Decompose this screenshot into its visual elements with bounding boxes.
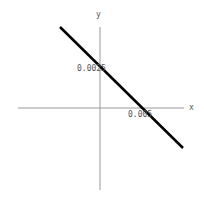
plot-area bbox=[0, 0, 204, 199]
x-tick-label: 0.005 bbox=[128, 111, 152, 119]
x-axis-label: x bbox=[189, 104, 194, 112]
chart: y x 0.0025 0.005 bbox=[0, 0, 204, 199]
y-axis-label: y bbox=[96, 11, 101, 19]
data-line bbox=[60, 27, 183, 148]
y-tick-label: 0.0025 bbox=[77, 65, 106, 73]
